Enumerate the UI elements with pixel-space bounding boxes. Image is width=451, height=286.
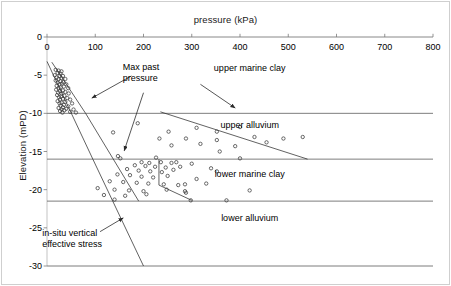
x-tick-label: 200 [136,42,151,52]
x-tick-label: 300 [184,42,199,52]
chart-figure: pressure (kPa) Elevation (mPD) 010020030… [0,0,451,286]
y-tick-label: -5 [18,70,42,80]
annotation-max-past-pressure: Max pastpressure [123,62,160,85]
y-tick-label: 0 [18,32,42,42]
y-tick-label: -25 [18,223,42,233]
x-tick-label: 500 [281,42,296,52]
strata-label-upper-marine-clay: upper marine clay [214,63,286,73]
annotation-arrows [92,76,235,232]
strata-boundaries [47,113,433,266]
x-tick-label: 0 [44,42,49,52]
annotation-line-2: pressure [123,73,160,85]
strata-label-upper-alluvium: upper alluvium [220,120,279,130]
annotation-in-situ-vertical-effective-stress: in-situ verticaleffective stress [42,228,102,251]
y-tick-label: -15 [18,147,42,157]
y-tick-label: -30 [18,261,42,271]
annotation-line-1: Max past [123,62,160,74]
x-tick-label: 100 [88,42,103,52]
strata-label-lower-marine-clay: lower marine clay [215,169,285,179]
x-tick-label: 400 [232,42,247,52]
strata-label-lower-alluvium: lower alluvium [221,213,278,223]
annotation-line-1: in-situ vertical [42,228,102,240]
x-tick-label: 600 [329,42,344,52]
x-tick-label: 700 [377,42,392,52]
x-tick-label: 800 [425,42,440,52]
y-tick-label: -20 [18,185,42,195]
y-tick-label: -10 [18,108,42,118]
annotation-line-2: effective stress [42,239,102,251]
data-points [53,68,304,202]
